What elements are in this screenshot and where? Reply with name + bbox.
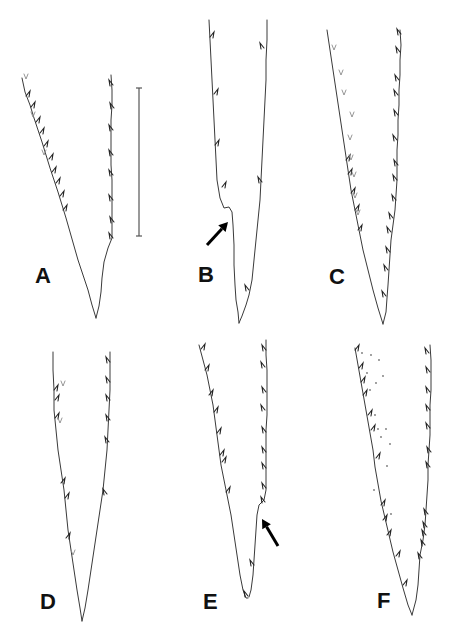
spine-mark [60,191,64,197]
spine-mark [376,453,380,459]
panel-label-c: C [329,266,345,288]
spine-mark [201,344,205,350]
figure-drawing [0,0,454,643]
spine-mark [395,75,399,81]
margin-right-outline [383,30,401,324]
spine-mark [261,405,265,411]
spine-mark [222,457,226,463]
stipple-dot [389,443,391,445]
spine-mark [210,32,214,38]
margin-left-outline [22,78,96,318]
spine-mark [384,265,388,271]
spine-mark [394,110,398,116]
spine-mark [262,483,266,489]
spine-mark [31,102,35,108]
spine-mark [396,47,400,53]
spine-mark [394,90,398,96]
spine-mark [355,345,359,351]
spine-mark [368,410,372,416]
margin-right-outline [82,352,110,621]
spine-mark [214,89,218,95]
spine-mark [426,367,430,373]
spine-mark [55,395,59,401]
margin-left-outline [199,345,248,598]
spine-mark [363,390,367,396]
arrow-E-icon [262,519,278,546]
margin-right-outline [412,345,431,615]
arrow-B-icon [207,222,228,245]
panel-label-f: F [377,590,390,612]
spine-mark [359,363,363,369]
stipple-dot [374,414,376,416]
spine-mark [426,423,430,429]
stipple-dot [369,389,371,391]
figure-canvas: A B C D E F [0,0,454,643]
panel-f [355,345,431,615]
spine-mark [40,128,44,134]
spine-mark [52,167,56,173]
spine-mark [226,487,230,493]
spine-mark [389,213,393,219]
faint-spine-mark [339,70,343,75]
spine-mark [66,533,70,539]
panels-layer [22,20,431,621]
spine-mark [403,580,407,586]
stipple-dot [385,428,387,430]
spine-mark [262,345,266,351]
spine-mark [56,178,60,184]
spine-mark [217,428,221,434]
spine-mark [106,377,110,383]
faint-spine-mark [58,418,62,423]
margin-right-outline [249,340,267,597]
panel-d [53,352,110,621]
faint-spine-mark [24,74,28,79]
spine-mark [426,387,430,393]
spine-mark [262,447,266,453]
spine-mark [222,182,226,188]
spine-mark [26,91,30,97]
spine-mark [245,285,249,291]
spine-mark [214,407,218,413]
spine-mark [54,385,58,391]
spine-mark [244,591,248,597]
stipple-dot [361,352,363,354]
spine-mark [371,425,375,431]
faint-spine-mark [353,193,357,198]
arrow-shaft [267,527,278,546]
spine-mark [63,205,67,211]
stipple-dot [373,489,375,491]
spine-mark [262,463,266,469]
faint-spine-mark [61,381,65,386]
spine-mark [382,291,386,297]
spine-mark [220,450,224,456]
panel-label-e: E [203,591,218,613]
spine-mark [261,362,265,368]
panel-label-d: D [40,591,56,613]
spine-mark [262,427,266,433]
spine-mark [36,117,40,123]
stipple-dot [378,359,380,361]
spine-mark [425,348,429,354]
stipple-dot [386,465,388,467]
stipple-dot [366,372,368,374]
margin-right-outline [239,20,267,323]
panel-label-b: B [198,264,214,286]
stipple-dot [377,428,379,430]
stipple-dot [382,375,384,377]
panel-b [209,20,267,323]
faint-spine-mark [342,90,346,95]
faint-spine-mark [352,172,356,177]
margin-left-outline [355,348,412,615]
spine-mark [106,357,110,363]
spine-mark [260,43,264,49]
spine-mark [387,227,391,233]
spine-mark [393,175,397,181]
spine-mark [103,489,107,495]
spine-mark [396,551,400,557]
spine-mark [393,135,397,141]
faint-spine-mark [332,45,336,50]
arrow-shaft [207,229,222,245]
spine-mark [361,377,365,383]
faint-spine-mark [350,112,354,117]
faint-spine-mark [348,135,352,140]
